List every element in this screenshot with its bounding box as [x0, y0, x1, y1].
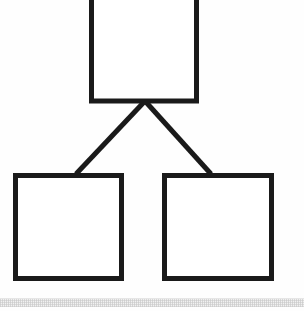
node-left-child-box[interactable]	[16, 176, 122, 279]
node-right-child-box[interactable]	[165, 176, 272, 279]
hierarchy-diagram	[0, 0, 304, 311]
diagram-canvas	[0, 0, 304, 311]
scan-artifact-band	[0, 299, 304, 307]
node-root-box[interactable]	[92, 0, 197, 101]
